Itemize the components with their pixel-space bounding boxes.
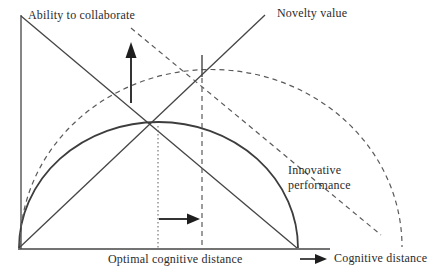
optimal-cognitive-distance-label: Optimal cognitive distance bbox=[108, 252, 243, 267]
innovative-performance-label: Innovative performance bbox=[288, 163, 351, 193]
innovative-performance-curve bbox=[19, 122, 298, 248]
ability-to-collaborate-label: Ability to collaborate bbox=[28, 8, 135, 23]
novelty-value-label: Novelty value bbox=[277, 6, 347, 21]
novelty-value-line bbox=[19, 15, 265, 248]
rightward-shift-arrow bbox=[159, 214, 200, 225]
shifted-ability-line bbox=[131, 28, 381, 235]
diagram-canvas bbox=[0, 0, 431, 280]
upward-shift-arrow bbox=[126, 42, 137, 103]
cognitive-distance-label: Cognitive distance bbox=[334, 251, 427, 266]
optimal-cognitive-distance-figure: Ability to collaborate Novelty value Inn… bbox=[0, 0, 431, 280]
x-axis-direction-arrow bbox=[300, 254, 327, 264]
shifted-performance-curve bbox=[20, 69, 402, 247]
